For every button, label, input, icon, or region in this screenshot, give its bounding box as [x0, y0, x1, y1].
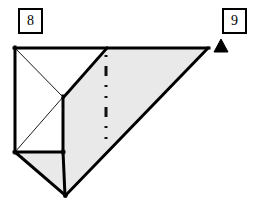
label-box-8: 8 — [18, 8, 43, 34]
edge-lower-front — [63, 151, 65, 196]
figure-canvas: 8 9 — [0, 0, 253, 206]
triangle-pointer-icon — [214, 39, 228, 52]
label-box-9: 9 — [222, 8, 247, 34]
label-box-8-text: 8 — [27, 14, 34, 28]
face-left-square — [15, 48, 63, 152]
label-box-9-text: 9 — [231, 14, 238, 28]
